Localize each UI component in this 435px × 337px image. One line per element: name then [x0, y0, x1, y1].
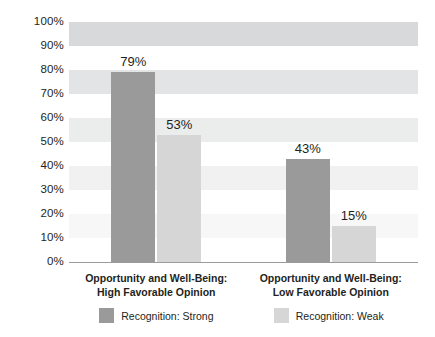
bar-value-label: 15%	[341, 209, 367, 222]
y-axis-tick-label: 70%	[0, 88, 64, 100]
y-axis-tick-label: 40%	[0, 160, 64, 172]
y-axis-tick-label: 90%	[0, 40, 64, 52]
y-axis: 100%90%80%70%60%50%40%30%20%10%0%	[0, 22, 64, 262]
bar-chart: 100%90%80%70%60%50%40%30%20%10%0% 79%53%…	[0, 0, 435, 337]
y-axis-tick-label: 0%	[0, 256, 64, 268]
category-label: Opportunity and Well-Being:High Favorabl…	[69, 272, 244, 299]
y-axis-tick-label: 10%	[0, 232, 64, 244]
y-axis-tick-label: 50%	[0, 136, 64, 148]
legend-label: Recognition: Strong	[121, 310, 213, 322]
bar	[286, 159, 330, 262]
category-label-line: Opportunity and Well-Being:	[69, 272, 244, 286]
bar-value-label: 53%	[166, 118, 192, 131]
legend-item[interactable]: Recognition: Weak	[274, 308, 384, 323]
bar-value-label: 43%	[295, 142, 321, 155]
y-axis-tick-label: 100%	[0, 16, 64, 28]
bar	[332, 226, 376, 262]
category-label-line: Opportunity and Well-Being:	[244, 272, 419, 286]
bar	[157, 135, 201, 262]
x-axis-line	[69, 262, 418, 263]
bar	[111, 72, 155, 262]
category-label: Opportunity and Well-Being:Low Favorable…	[244, 272, 419, 299]
y-axis-tick-label: 20%	[0, 208, 64, 220]
bar-value-label: 79%	[120, 55, 146, 68]
grid-band	[69, 22, 418, 46]
legend-swatch	[99, 308, 114, 323]
y-axis-tick-label: 30%	[0, 184, 64, 196]
legend-item[interactable]: Recognition: Strong	[99, 308, 213, 323]
y-axis-tick-label: 80%	[0, 64, 64, 76]
category-label-line: High Favorable Opinion	[69, 286, 244, 300]
category-label-line: Low Favorable Opinion	[244, 286, 419, 300]
y-axis-tick-label: 60%	[0, 112, 64, 124]
legend-swatch	[274, 308, 289, 323]
legend-label: Recognition: Weak	[296, 310, 384, 322]
